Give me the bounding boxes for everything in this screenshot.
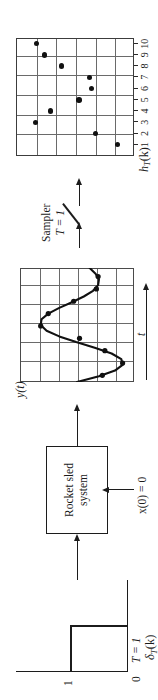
hk-axis-tick-label: 9 (139, 52, 150, 57)
yt-sample-marker (120, 360, 125, 365)
delta-pulse-right-edge (70, 625, 128, 627)
grid-line-horizontal (115, 39, 116, 155)
hk-grid (16, 38, 134, 156)
hk-axis-tick (134, 65, 138, 66)
block-label-line1: Rocket sled (63, 463, 75, 517)
sampler-panel: Sampler T = 1 (38, 174, 148, 248)
rocket-sled-figure: 1 0 T = 1 δT(k) Rocket sled system x(0) … (0, 0, 157, 700)
delta-input-panel: 1 0 T = 1 δT(k) (10, 576, 150, 696)
sampler-label-line1: Sampler (40, 204, 52, 242)
arrow-up-icon (102, 488, 109, 494)
initial-condition-line (108, 489, 134, 490)
initial-condition-label: x(0) = 0 (136, 477, 148, 514)
hk-axis-tick-label: 5 (139, 97, 150, 102)
yt-axis-label: y(t) (14, 381, 27, 398)
hk-axis-tick-label: 8 (139, 64, 150, 69)
delta-amplitude-label: 1 (62, 680, 74, 686)
grid-line-horizontal (96, 39, 97, 155)
yt-time-axis-label: t (135, 333, 147, 336)
block-label: Rocket sled system (63, 463, 90, 517)
delta-amplitude-tick (70, 666, 71, 672)
hk-axis-tick (134, 43, 138, 44)
hk-argument: (k) (137, 147, 151, 161)
sampler-switch-icon (60, 204, 82, 226)
hk-sample-dot (48, 108, 53, 113)
delta-origin-label: 0 (130, 676, 142, 682)
delta-period-label: T = 1 (130, 638, 142, 663)
hk-axis-label: hT(k) (138, 147, 152, 172)
yt-plot-panel: y(t) t (6, 250, 154, 400)
hk-symbol: h (137, 166, 151, 172)
hk-axis-tick (134, 99, 138, 100)
hk-axis-tick (134, 110, 138, 111)
block-output-line (77, 406, 78, 446)
yt-sample-marker (102, 348, 107, 353)
hk-tick-axis: 12345678910 (134, 38, 156, 156)
hk-sample-dot (59, 63, 64, 68)
hk-subscript: T (142, 161, 152, 166)
yt-sample-marker (96, 274, 101, 279)
hk-axis-tick (134, 88, 138, 89)
yt-sample-marker (71, 299, 76, 304)
sampler-input-line (79, 226, 80, 248)
hk-axis-tick (134, 133, 138, 134)
hk-axis-tick (134, 144, 138, 145)
delta-argument: (k) (143, 635, 157, 650)
yt-sample-marker (94, 286, 99, 291)
delta-symbol: δ (143, 654, 157, 660)
figure-rotation-wrapper: 1 0 T = 1 δT(k) Rocket sled system x(0) … (0, 0, 157, 700)
hk-axis-tick-label: 10 (139, 39, 150, 49)
rocket-sled-block-panel: Rocket sled system x(0) = 0 (6, 404, 154, 574)
hk-sample-dot (42, 52, 47, 57)
delta-subscript: T (149, 649, 157, 654)
arrow-right-icon (143, 283, 149, 290)
block-input-line (77, 540, 78, 580)
yt-sample-marker (38, 323, 43, 328)
hk-axis-tick (134, 121, 138, 122)
sampler-switch-bar (62, 203, 79, 224)
grid-line-horizontal (56, 39, 57, 155)
yt-label-text: y(t) (13, 381, 27, 398)
yt-sample-marker (77, 336, 82, 341)
delta-pulse-top-edge (70, 626, 72, 671)
hk-sample-dot (76, 97, 81, 102)
yt-response-curve (20, 268, 134, 382)
arrow-right-icon (74, 534, 80, 541)
rocket-sled-system-block: Rocket sled system (46, 446, 108, 534)
hk-axis-tick-label: 6 (139, 86, 150, 91)
block-label-line2: system (77, 474, 89, 506)
hk-axis-tick-label: 2 (139, 131, 150, 136)
delta-vertical-axis (16, 671, 128, 672)
hk-axis-tick-label: 7 (139, 75, 150, 80)
hk-axis-tick-label: 4 (139, 109, 150, 114)
yt-sample-marker (100, 373, 105, 378)
hk-axis-tick-label: 3 (139, 120, 150, 125)
arrow-right-icon (76, 178, 82, 185)
delta-signal-label: δT(k) (144, 635, 157, 660)
hk-axis-tick (134, 54, 138, 55)
yt-sample-marker (46, 311, 51, 316)
hk-plot-panel: 12345678910 hT(k) (6, 4, 156, 172)
hk-axis-tick (134, 76, 138, 77)
arrow-right-icon (74, 404, 80, 411)
grid-line-horizontal (37, 39, 38, 155)
